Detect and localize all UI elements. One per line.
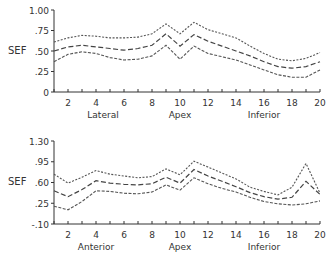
region-label: Anterior bbox=[78, 242, 115, 252]
y-tick-label: .25 bbox=[35, 67, 49, 77]
x-tick-label: 20 bbox=[314, 98, 326, 108]
sef-charts: 0.25.50.751.00SEF2468101214161820Lateral… bbox=[0, 0, 332, 257]
y-tick-label: .60 bbox=[35, 178, 50, 188]
y-axis-label: SEF bbox=[8, 176, 27, 187]
y-tick-label: 1.30 bbox=[29, 137, 49, 147]
y-tick-label: .95 bbox=[35, 157, 49, 167]
x-tick-label: 16 bbox=[258, 230, 270, 240]
x-tick-label: 12 bbox=[202, 98, 213, 108]
x-tick-label: 18 bbox=[286, 230, 298, 240]
region-label: Inferior bbox=[248, 242, 281, 252]
x-tick-label: 12 bbox=[202, 230, 213, 240]
chart-bottom-anterior-apex-inferior: -.10.25.60.951.30SEF2468101214161820Ante… bbox=[8, 137, 326, 253]
series-line-upper bbox=[54, 22, 320, 61]
x-tick-label: 8 bbox=[149, 98, 155, 108]
x-tick-label: 6 bbox=[121, 98, 127, 108]
y-tick-label: 0 bbox=[43, 88, 49, 98]
y-tick-label: 1.00 bbox=[29, 6, 49, 16]
region-label: Apex bbox=[169, 110, 192, 120]
series-line-upper bbox=[54, 161, 320, 195]
x-tick-label: 4 bbox=[93, 230, 99, 240]
x-tick-label: 10 bbox=[174, 230, 186, 240]
series-line-mean bbox=[54, 34, 320, 68]
x-tick-label: 14 bbox=[230, 230, 242, 240]
region-label: Lateral bbox=[87, 110, 118, 120]
series-line-lower bbox=[54, 178, 320, 210]
x-tick-label: 14 bbox=[230, 98, 242, 108]
x-tick-label: 2 bbox=[65, 98, 71, 108]
x-tick-label: 4 bbox=[93, 98, 99, 108]
y-tick-label: -.10 bbox=[31, 220, 49, 230]
chart-top-lateral-apex-inferior: 0.25.50.751.00SEF2468101214161820Lateral… bbox=[8, 6, 326, 121]
x-tick-label: 8 bbox=[149, 230, 155, 240]
y-axis-label: SEF bbox=[8, 45, 27, 56]
x-tick-label: 20 bbox=[314, 230, 326, 240]
x-tick-label: 2 bbox=[65, 230, 71, 240]
x-tick-label: 6 bbox=[121, 230, 127, 240]
x-tick-label: 18 bbox=[286, 98, 298, 108]
region-label: Inferior bbox=[248, 110, 281, 120]
x-tick-label: 10 bbox=[174, 98, 186, 108]
series-line-lower bbox=[54, 45, 320, 77]
region-label: Apex bbox=[169, 242, 192, 252]
y-tick-label: .50 bbox=[35, 47, 50, 57]
y-tick-label: .25 bbox=[35, 199, 49, 209]
y-tick-label: .75 bbox=[35, 26, 49, 36]
x-tick-label: 16 bbox=[258, 98, 270, 108]
